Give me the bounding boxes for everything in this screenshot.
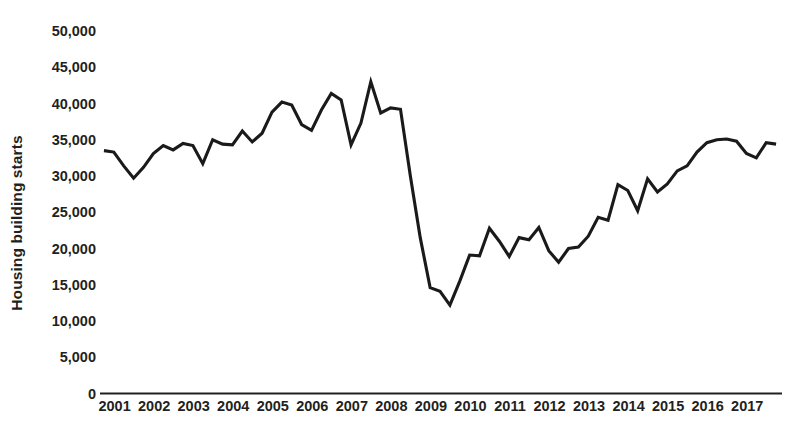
x-axis-tick-label: 2001 [98,398,130,414]
series-line-housing-building-starts [104,82,776,305]
plot-area [0,0,795,446]
x-axis-tick-label: 2014 [612,398,644,414]
x-axis-tick-label: 2010 [454,398,486,414]
x-axis-tick-label: 2007 [336,398,368,414]
x-axis-tick-label: 2004 [217,398,249,414]
x-axis-tick-label: 2011 [494,398,525,414]
x-axis-tick-label: 2016 [692,398,724,414]
x-axis-tick-label: 2013 [573,398,605,414]
x-axis-tick-label: 2002 [138,398,170,414]
x-axis-tick-label: 2005 [257,398,289,414]
x-axis-tick-label: 2006 [296,398,328,414]
x-axis-tick-label: 2009 [415,398,447,414]
x-axis-tick-label: 2003 [178,398,210,414]
x-axis-tick-labels: 2001200220032004200520062007200820092010… [0,398,795,422]
x-axis-tick-label: 2015 [652,398,684,414]
x-axis-tick-label: 2008 [375,398,407,414]
x-axis-tick-label: 2017 [731,398,763,414]
chart-container: Housing building starts 05,00010,00015,0… [0,0,795,446]
x-axis-tick-label: 2012 [533,398,565,414]
